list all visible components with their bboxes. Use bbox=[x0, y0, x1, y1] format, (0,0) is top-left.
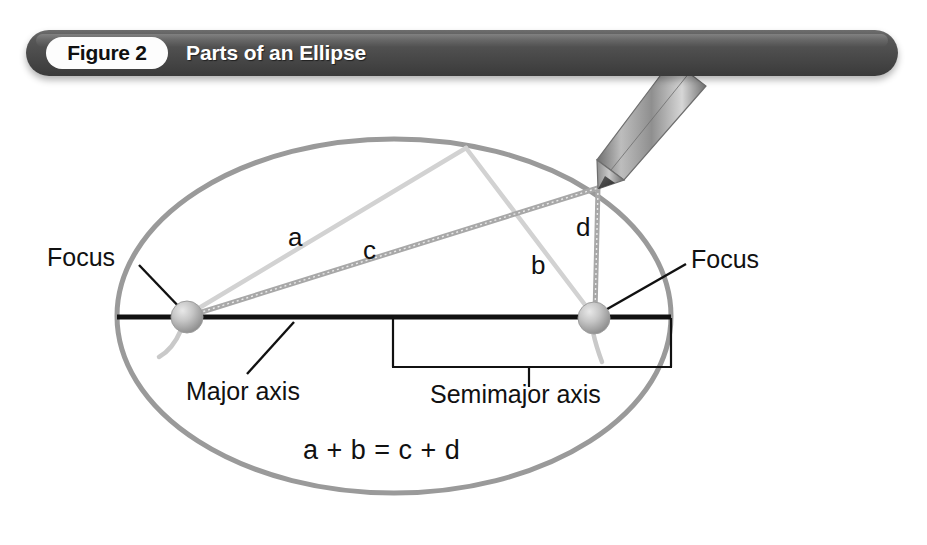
label-string-d: d bbox=[576, 212, 590, 243]
label-focus-right: Focus bbox=[691, 245, 759, 274]
label-string-c: c bbox=[363, 235, 376, 266]
ellipse-equation: a + b = c + d bbox=[303, 435, 460, 466]
leader-focus-right bbox=[602, 264, 686, 312]
string-tail-left bbox=[159, 330, 181, 357]
leader-major-axis bbox=[247, 322, 294, 374]
pencil-icon bbox=[597, 60, 706, 189]
string-d bbox=[595, 188, 598, 314]
ellipse-diagram bbox=[0, 0, 927, 545]
focus-sphere-right bbox=[578, 302, 610, 334]
string-b bbox=[466, 148, 592, 314]
leader-focus-left bbox=[139, 265, 183, 311]
string-pair-light bbox=[189, 148, 592, 314]
pencil-facet-line bbox=[611, 72, 690, 170]
figure-banner: Figure 2 Parts of an Ellipse bbox=[26, 30, 898, 76]
label-focus-left: Focus bbox=[47, 243, 115, 272]
label-string-b: b bbox=[531, 250, 545, 281]
label-string-a: a bbox=[288, 222, 302, 253]
figure-number-pill: Figure 2 bbox=[46, 37, 168, 69]
label-major-axis: Major axis bbox=[186, 377, 300, 406]
figure-page: Figure 2 Parts of an Ellipse Focus Focus… bbox=[0, 0, 927, 545]
focus-sphere-left bbox=[171, 301, 203, 333]
string-tail-right bbox=[593, 332, 602, 362]
semimajor-axis-bracket bbox=[392, 318, 672, 387]
figure-number-label: Figure 2 bbox=[67, 41, 146, 65]
figure-title: Parts of an Ellipse bbox=[186, 37, 366, 69]
label-semimajor-axis: Semimajor axis bbox=[430, 380, 601, 409]
